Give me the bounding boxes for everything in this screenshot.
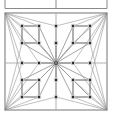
node-tr-lower[interactable] (88, 41, 91, 44)
node-br-inner[interactable] (71, 95, 74, 98)
hub-spoke-n9 (56, 43, 73, 63)
node-mid-left-outer[interactable] (20, 61, 23, 64)
node-tl-outer[interactable] (20, 24, 23, 27)
node-bl-upper[interactable] (20, 78, 23, 81)
node-br-upper[interactable] (88, 78, 91, 81)
node-br-upper-inner[interactable] (71, 78, 74, 81)
node-tr-outer[interactable] (88, 24, 91, 27)
hub-spoke-n10 (56, 43, 90, 63)
hub-spoke-n6 (22, 43, 56, 63)
hub-spoke-n23 (56, 63, 73, 97)
hub-spoke-n2 (39, 26, 56, 63)
diagram-canvas (0, 0, 113, 116)
hub-spoke-n19 (56, 63, 90, 80)
node-tr-inner[interactable] (71, 24, 74, 27)
node-mid-left-inner[interactable] (37, 61, 40, 64)
node-mid-right-outer[interactable] (88, 61, 91, 64)
hub-spoke-n4 (56, 26, 73, 63)
node-bot-center-down[interactable] (54, 95, 57, 98)
node-tl-lower[interactable] (20, 41, 23, 44)
node-top-center-down[interactable] (54, 41, 57, 44)
node-bl-inner[interactable] (37, 95, 40, 98)
hub-spoke-n7 (39, 43, 56, 63)
node-tr-lower-inner[interactable] (71, 41, 74, 44)
hub-spoke-n21 (39, 63, 56, 97)
fan-bottom-right-edge (90, 80, 107, 110)
center-hub[interactable] (55, 62, 58, 65)
node-top-center-up[interactable] (54, 24, 57, 27)
node-tl-inner[interactable] (37, 24, 40, 27)
hub-spoke-n15 (22, 63, 56, 80)
fan-bottom-left-edge (5, 43, 22, 110)
node-br-outer[interactable] (88, 95, 91, 98)
node-bl-upper-inner[interactable] (37, 78, 40, 81)
node-mid-right-inner[interactable] (71, 61, 74, 64)
node-bot-center-up[interactable] (54, 78, 57, 81)
graph-svg (0, 0, 113, 116)
node-tl-lower-inner[interactable] (37, 41, 40, 44)
fan-bottom-left-edge (5, 80, 22, 110)
fan-bottom-right-edge (90, 43, 107, 110)
node-bl-outer[interactable] (20, 95, 23, 98)
